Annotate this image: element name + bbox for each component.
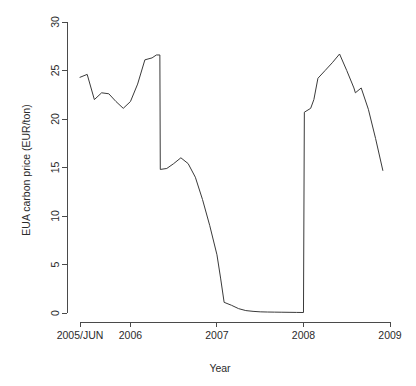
chart-figure: 051015202530 2005/JUN2006200720082009 EU… xyxy=(0,0,416,386)
y-axis-ticks xyxy=(62,22,67,313)
y-axis-tick-label: 10 xyxy=(49,210,61,222)
y-axis-tick-label: 30 xyxy=(49,16,61,28)
x-axis-tick-label: 2006 xyxy=(119,329,143,341)
x-axis-tick-label: 2005/JUN xyxy=(57,329,104,341)
data-series-line xyxy=(80,54,383,313)
y-axis-tick-label: 15 xyxy=(49,162,61,174)
x-axis-tick-labels: 2005/JUN2006200720082009 xyxy=(57,329,402,341)
y-axis-tick-label: 5 xyxy=(49,261,61,267)
x-axis-ticks xyxy=(80,322,390,327)
y-axis-tick-label: 0 xyxy=(49,310,61,316)
y-axis-tick-label: 20 xyxy=(49,113,61,125)
x-axis-title: Year xyxy=(209,362,231,374)
x-axis-tick-label: 2007 xyxy=(205,329,229,341)
line-chart-canvas: 051015202530 2005/JUN2006200720082009 EU… xyxy=(0,0,416,386)
x-axis-tick-label: 2008 xyxy=(292,329,316,341)
y-axis-title: EUA carbon price (EUR/ton) xyxy=(20,104,32,235)
y-axis-tick-label: 25 xyxy=(49,65,61,77)
y-axis-tick-labels: 051015202530 xyxy=(49,16,61,316)
x-axis-tick-label: 2009 xyxy=(378,329,402,341)
